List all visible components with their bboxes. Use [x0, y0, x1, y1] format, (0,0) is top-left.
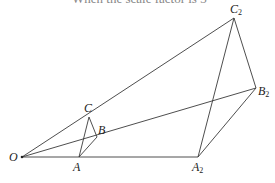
- ray-o-b2: [22, 88, 256, 157]
- label-a: A: [72, 160, 81, 174]
- triangle-a2b2c2: [198, 18, 256, 157]
- label-b: B: [98, 123, 106, 137]
- label-b2: B2: [258, 84, 269, 99]
- dilation-diagram: O A B C A2 B2 C2: [0, 0, 275, 183]
- point-o-dot: [21, 156, 24, 159]
- ray-o-c2: [22, 18, 234, 157]
- triangle-abc: [79, 117, 97, 157]
- label-a2: A2: [191, 160, 203, 175]
- label-c2: C2: [230, 2, 242, 17]
- rays: [22, 18, 256, 157]
- label-o: O: [9, 150, 18, 164]
- label-c: C: [84, 101, 93, 115]
